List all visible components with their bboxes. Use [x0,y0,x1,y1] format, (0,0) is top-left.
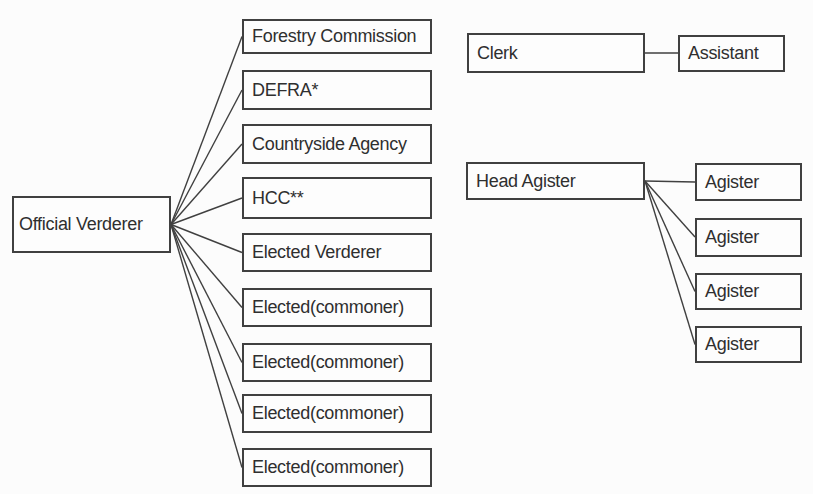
node-elected-commoner-4: Elected(commoner) [242,448,432,487]
connector-official-to-member-0 [171,37,242,225]
node-assistant: Assistant [678,35,785,72]
node-agister-2: Agister [695,218,802,257]
node-countryside-agency: Countryside Agency [242,124,432,164]
node-elected-commoner-1: Elected(commoner) [242,288,432,327]
connector-official-to-member-1 [171,90,242,225]
connector-official-to-member-7 [171,225,242,414]
node-forestry-commission: Forestry Commission [242,19,432,54]
connector-official-to-member-4 [171,225,242,253]
node-clerk: Clerk [467,33,645,73]
node-head-agister: Head Agister [466,162,645,200]
node-agister-1: Agister [695,163,802,201]
org-chart: Official Verderer Forestry Commission DE… [0,0,813,494]
node-elected-verderer: Elected Verderer [242,233,432,272]
node-hcc: HCC** [242,177,432,219]
connector-headagister-to-agister-3 [645,181,695,345]
connector-headagister-to-agister-1 [645,181,695,237]
connector-official-to-member-6 [171,225,242,363]
node-official-verderer: Official Verderer [12,196,171,253]
node-defra: DEFRA* [242,70,432,110]
connector-official-to-member-8 [171,225,242,468]
connector-headagister-to-agister-0 [645,181,695,182]
node-agister-3: Agister [695,273,802,310]
node-elected-commoner-3: Elected(commoner) [242,394,432,433]
node-agister-4: Agister [695,326,802,363]
connector-official-to-member-3 [171,198,242,225]
connector-official-to-member-5 [171,225,242,308]
connector-headagister-to-agister-2 [645,181,695,292]
node-elected-commoner-2: Elected(commoner) [242,343,432,382]
